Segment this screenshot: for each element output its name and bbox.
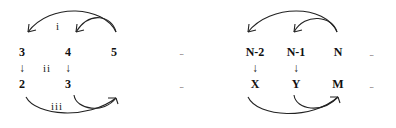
arc-3-to-right <box>74 95 116 108</box>
node-N: N <box>334 46 343 58</box>
node-5: 5 <box>111 46 117 58</box>
arc-X-to-M <box>248 97 338 114</box>
arc-5-to-4 <box>76 18 116 32</box>
down-arrow-icon: ↓ <box>252 62 258 74</box>
label-ii: ii <box>43 63 51 74</box>
arc-2-to-right <box>26 97 116 113</box>
ellipsis-right-bottom: ... <box>369 81 373 90</box>
node-3-top: 3 <box>19 46 25 58</box>
node-4: 4 <box>65 46 71 58</box>
node-2: 2 <box>19 78 25 90</box>
ellipsis-top: ... <box>179 48 183 57</box>
down-arrow-icon: ↓ <box>19 62 25 74</box>
node-M: M <box>332 78 343 90</box>
node-3-bottom: 3 <box>65 78 71 90</box>
label-iii: iii <box>51 101 63 112</box>
arc-5-to-3 <box>28 11 116 32</box>
ellipsis-bottom: ... <box>179 81 183 90</box>
arc-N-to-N-2 <box>248 11 337 32</box>
node-N-1: N-1 <box>287 46 306 58</box>
down-arrow-icon: ↓ <box>293 62 299 74</box>
node-Y: Y <box>292 78 301 90</box>
down-arrow-icon: ↓ <box>65 62 71 74</box>
node-X: X <box>251 78 260 90</box>
ellipsis-right-top: ... <box>369 49 373 58</box>
node-N-2: N-2 <box>246 46 265 58</box>
label-i: i <box>56 21 60 32</box>
